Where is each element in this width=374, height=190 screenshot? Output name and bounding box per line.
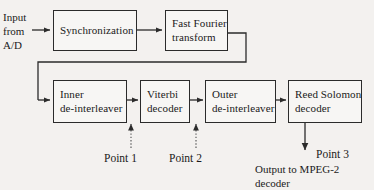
label-point-3: Point 3	[316, 147, 349, 161]
output-label-line-1: Output to MPEG-2	[255, 163, 339, 177]
block-viterbi-decoder[interactable]: Viterbi decoder	[140, 80, 190, 123]
diagram-canvas: Input from A/D Synchronization Fast Four…	[0, 0, 374, 190]
block-outer-line-1: Outer	[212, 88, 275, 101]
block-viterbi-line-1: Viterbi	[147, 88, 189, 101]
block-viterbi-line-2: decoder	[147, 102, 189, 115]
label-point-2: Point 2	[169, 151, 202, 165]
block-fft-line-1: Fast Fourier	[172, 17, 227, 30]
input-source-label: Input from A/D	[3, 11, 26, 52]
block-inner-de-interleaver[interactable]: Inner de-interleaver	[53, 80, 127, 123]
block-fft-line-2: transform	[172, 31, 227, 44]
label-point-1: Point 1	[104, 151, 137, 165]
block-inner-line-1: Inner	[60, 88, 126, 101]
block-synchronization[interactable]: Synchronization	[53, 10, 137, 51]
input-label-line-1: Input	[3, 11, 26, 25]
input-label-line-2: from	[3, 25, 26, 39]
output-label-line-2: decoder	[255, 177, 339, 190]
block-inner-line-2: de-interleaver	[60, 102, 126, 115]
block-fast-fourier-transform[interactable]: Fast Fourier transform	[165, 10, 228, 51]
input-label-line-3: A/D	[3, 39, 26, 53]
block-synchronization-line-1: Synchronization	[60, 24, 136, 37]
block-reed-solomon-decoder[interactable]: Reed Solomon decoder	[288, 80, 362, 123]
block-reedsolomon-line-1: Reed Solomon	[295, 88, 361, 101]
output-destination-label: Output to MPEG-2 decoder	[255, 163, 339, 190]
block-reedsolomon-line-2: decoder	[295, 102, 361, 115]
block-outer-line-2: de-interleaver	[212, 102, 275, 115]
block-outer-de-interleaver[interactable]: Outer de-interleaver	[205, 80, 276, 123]
